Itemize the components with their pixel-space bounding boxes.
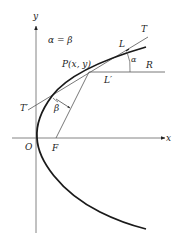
beta-label: β — [53, 103, 59, 113]
horizontal-end-label: R — [145, 60, 153, 70]
parabola-reflection-diagram: y x O F α = β P(x, y) T T′ L L′ R α β — [0, 0, 181, 243]
alpha-label: α — [131, 55, 137, 64]
y-axis-label: y — [32, 11, 39, 21]
equation-label: α = β — [48, 35, 73, 45]
origin-label: O — [25, 142, 33, 152]
point-p-label: P(x, y) — [61, 59, 91, 69]
focus-label: F — [51, 143, 59, 153]
horizontal-ray-label: L′ — [103, 75, 112, 85]
incoming-ray-label: L — [118, 39, 125, 49]
alpha-marker — [126, 49, 129, 51]
alpha-arc — [127, 52, 130, 72]
x-axis-label: x — [166, 133, 171, 143]
tangent-end-label: T — [141, 24, 148, 34]
focal-ray — [56, 72, 89, 138]
tangent-start-label: T′ — [20, 103, 28, 113]
